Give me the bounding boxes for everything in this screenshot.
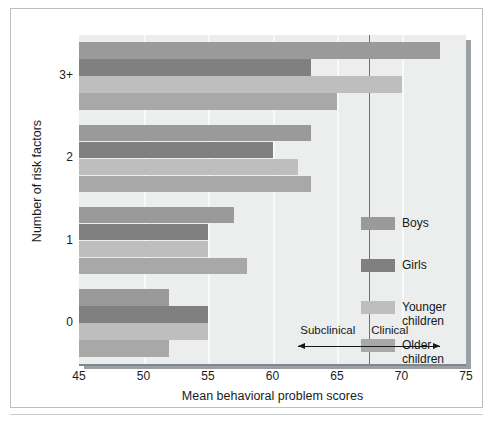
legend-swatch-icon xyxy=(361,259,395,272)
annotation-arrow-line-subclinical xyxy=(298,346,369,347)
bar-younger-children-2 xyxy=(79,159,298,176)
x-tick-55: 55 xyxy=(201,369,214,383)
bar-boys-1 xyxy=(79,207,234,224)
bar-girls-3plus xyxy=(79,59,311,76)
x-tick-65: 65 xyxy=(330,369,343,383)
bar-younger-children-3plus xyxy=(79,76,402,93)
bar-older-children-2 xyxy=(79,176,311,193)
legend-label: Girls xyxy=(402,259,427,273)
y-axis-title: Number of risk factors xyxy=(30,71,44,291)
bar-older-children-1 xyxy=(79,258,247,275)
annotation-arrow-line-clinical xyxy=(369,346,440,347)
bar-boys-3plus xyxy=(79,42,440,59)
y-tick-3plus: 3+ xyxy=(59,68,73,82)
x-tick-60: 60 xyxy=(266,369,279,383)
bar-younger-children-1 xyxy=(79,241,208,258)
annotation-arrow-head-clinical xyxy=(433,343,440,349)
legend-item-girls[interactable]: Girls xyxy=(361,259,427,273)
legend-swatch-icon xyxy=(361,217,395,230)
bar-younger-children-0 xyxy=(79,323,208,340)
annotation-label-subclinical: Subclinical xyxy=(300,324,355,336)
page-bottom-rule xyxy=(10,414,483,415)
bar-girls-1 xyxy=(79,224,208,241)
x-tick-70: 70 xyxy=(395,369,408,383)
legend-item-boys[interactable]: Boys xyxy=(361,217,429,231)
legend-swatch-icon xyxy=(361,301,395,314)
x-axis-title: Mean behavioral problem scores xyxy=(79,389,466,403)
y-tick-2: 2 xyxy=(66,150,73,164)
x-tick-45: 45 xyxy=(72,369,85,383)
bar-boys-2 xyxy=(79,125,311,142)
legend-item-older-children[interactable]: Older children xyxy=(361,339,444,366)
bar-girls-0 xyxy=(79,306,208,323)
legend-label: Younger children xyxy=(402,301,446,328)
x-tick-50: 50 xyxy=(137,369,150,383)
bar-older-children-3plus xyxy=(79,93,337,110)
annotation-arrow-head-subclinical xyxy=(298,343,305,349)
x-tick-75: 75 xyxy=(459,369,472,383)
legend-label: Boys xyxy=(402,217,429,231)
plot-shadow-right xyxy=(466,40,471,369)
y-tick-0: 0 xyxy=(66,315,73,329)
y-tick-1: 1 xyxy=(66,233,73,247)
annotation-label-clinical: Clinical xyxy=(371,324,408,336)
bar-boys-0 xyxy=(79,289,169,306)
bar-girls-2 xyxy=(79,142,273,159)
figure-frame: 3+210 45505560657075 Mean behavioral pro… xyxy=(10,8,483,408)
bar-older-children-0 xyxy=(79,340,169,357)
